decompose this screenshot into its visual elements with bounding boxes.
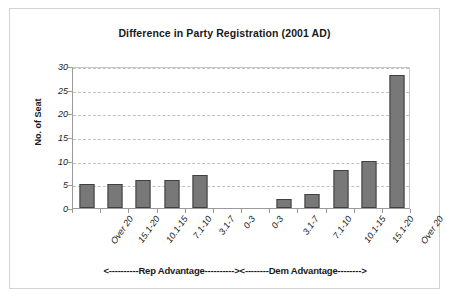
chart-frame: Difference in Party Registration (2001 A… bbox=[9, 8, 440, 289]
x-axis-tick-label: 7.1-10 bbox=[190, 214, 213, 241]
bar-slot bbox=[129, 68, 157, 208]
bar-slot bbox=[383, 68, 411, 208]
bar-slot bbox=[298, 68, 326, 208]
bar-slot bbox=[327, 68, 355, 208]
x-axis-tick-label: Over 20 bbox=[419, 214, 446, 246]
bar-slot bbox=[73, 68, 101, 208]
bar-slot bbox=[242, 68, 270, 208]
x-axis-tick-mark bbox=[157, 209, 158, 213]
dem-advantage-annotation: <--------Dem Advantage--------> bbox=[240, 265, 367, 276]
bar[interactable] bbox=[361, 161, 376, 208]
bar-slot bbox=[355, 68, 383, 208]
x-axis-tick-mark bbox=[410, 209, 411, 213]
x-axis-tick-mark bbox=[128, 209, 129, 213]
x-axis-tick-label: 10.1-15 bbox=[164, 214, 190, 245]
x-axis-tick-mark bbox=[72, 209, 73, 213]
x-axis-tick-label: Over 20 bbox=[109, 214, 136, 246]
x-axis-tick-label: 7.1-10 bbox=[331, 214, 354, 241]
bar[interactable] bbox=[108, 184, 123, 208]
x-axis-tick-label: 3.1-7 bbox=[216, 214, 236, 237]
x-axis-tick-label: 0-3 bbox=[270, 214, 286, 230]
bar-slot bbox=[101, 68, 129, 208]
x-axis-tick-label: 3.1-7 bbox=[301, 214, 321, 237]
plot-area bbox=[72, 67, 410, 209]
bar[interactable] bbox=[192, 175, 207, 208]
bar-slot bbox=[158, 68, 186, 208]
y-axis-tick-marks bbox=[37, 67, 73, 209]
x-axis-tick-label: 0-3 bbox=[241, 214, 257, 230]
x-axis-tick-label: 15.1-20 bbox=[136, 214, 162, 245]
advantage-annotations: <----------Rep Advantage----------><----… bbox=[40, 261, 430, 279]
bar[interactable] bbox=[80, 184, 95, 208]
bar[interactable] bbox=[164, 180, 179, 208]
x-axis-tick-label: 10.1-15 bbox=[362, 214, 388, 245]
bar[interactable] bbox=[389, 75, 404, 208]
bar[interactable] bbox=[305, 194, 320, 208]
x-axis-tick-mark bbox=[354, 209, 355, 213]
bar[interactable] bbox=[136, 180, 151, 208]
x-axis-tick-mark bbox=[213, 209, 214, 213]
bar-slot bbox=[270, 68, 298, 208]
bar-slot bbox=[214, 68, 242, 208]
x-axis-tick-mark bbox=[382, 209, 383, 213]
x-axis-tick-label: 15.1-20 bbox=[390, 214, 416, 245]
rep-advantage-annotation: <----------Rep Advantage----------> bbox=[103, 265, 239, 276]
x-axis-tick-mark bbox=[297, 209, 298, 213]
x-axis-tick-mark bbox=[326, 209, 327, 213]
bar[interactable] bbox=[333, 170, 348, 208]
bar[interactable] bbox=[277, 199, 292, 208]
bar-slot bbox=[186, 68, 214, 208]
chart-title: Difference in Party Registration (2001 A… bbox=[10, 27, 439, 39]
x-axis-tick-mark bbox=[269, 209, 270, 213]
x-axis-tick-mark bbox=[185, 209, 186, 213]
x-axis-tick-mark bbox=[241, 209, 242, 213]
x-axis-tick-labels: Over 2015.1-2010.1-157.1-103.1-70-30-33.… bbox=[72, 214, 410, 258]
x-axis-tick-mark bbox=[100, 209, 101, 213]
